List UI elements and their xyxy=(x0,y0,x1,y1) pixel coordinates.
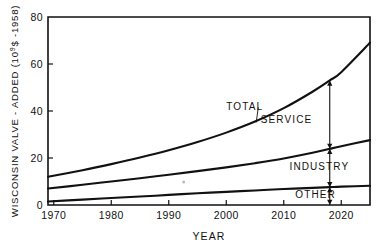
chart-figure: 020406080 197019801990200020102020 TOTAL… xyxy=(0,0,385,249)
y-tick-label: 80 xyxy=(31,11,43,23)
y-axis-title-prefix: WISCONSIN VALVE - ADDED (10 xyxy=(9,51,20,217)
series-label-service: SERVICE xyxy=(261,114,312,125)
y-tick-label: 60 xyxy=(31,58,43,70)
y-tick-label: 20 xyxy=(31,152,43,164)
x-tick-label: 2020 xyxy=(329,209,354,221)
y-tick-label: 40 xyxy=(31,105,43,117)
series-label-other: OTHER xyxy=(295,189,336,200)
scan-speck xyxy=(182,181,185,184)
series-label-total: TOTAL xyxy=(226,101,263,112)
chart-svg: 020406080 197019801990200020102020 TOTAL… xyxy=(0,0,385,249)
x-tick-label: 2000 xyxy=(214,209,239,221)
series-label-industry: INDUSTRY xyxy=(290,161,350,172)
x-axis-title: YEAR xyxy=(193,230,226,242)
x-tick-label: 1990 xyxy=(156,209,181,221)
y-axis-title: WISCONSIN VALVE - ADDED (109$ -1958) xyxy=(9,5,20,217)
x-tick-label: 1970 xyxy=(41,209,66,221)
x-tick-label: 1980 xyxy=(99,209,124,221)
y-axis-title-suffix: $ -1958) xyxy=(9,5,20,47)
x-tick-label: 2010 xyxy=(271,209,296,221)
